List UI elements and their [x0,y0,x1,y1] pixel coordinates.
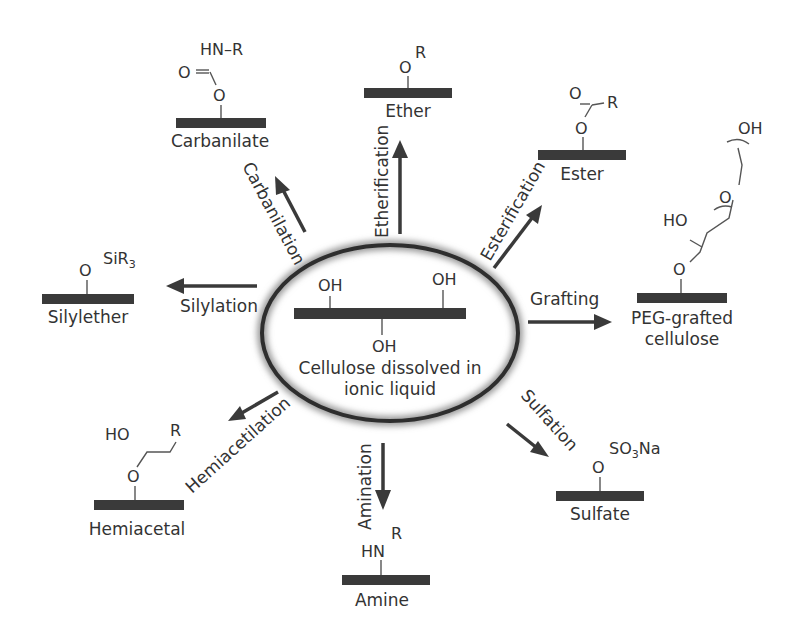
arrow-head-icon [166,278,184,294]
oh-right-label: OH [432,270,457,289]
center-label-line1: Cellulose dissolved in [299,358,482,378]
product-label-line1: PEG-grafted [631,308,733,328]
hn-label: HN [361,542,385,561]
center-cellulose-chain: OH OH OH Cellulose dissolved in ionic li… [294,270,481,399]
reaction-amination: Amination HN R Amine [342,443,430,610]
oh-left-label: OH [318,276,343,295]
reaction-esterification: Esterification O O R Ester [476,84,626,268]
product-label: Ester [560,164,604,184]
product-label-line2: cellulose [645,329,719,349]
ho-label: HO [105,425,130,444]
o-atom-label: O [79,261,92,280]
oh-bottom-label: OH [372,337,397,356]
reaction-label: Amination [355,443,375,530]
product-label: Silylether [48,307,128,327]
r-group-label: R [607,93,618,112]
carbonyl-o-label: O [178,63,191,82]
so3na-label: SO3Na [609,439,661,461]
arrow-head-icon [228,406,246,421]
reaction-sulfation: Sulfation O SO3Na Sulfate [507,385,661,524]
reaction-label: Carbanilation [238,158,309,268]
reaction-hemiacetilation: Hemiacetilation O HO R Hemiacetal [89,392,294,539]
arrow-head-icon [392,140,408,158]
reaction-label: Sulfation [517,385,582,454]
hn-r-label: HN–R [200,40,243,59]
reaction-label: Etherification [372,125,392,238]
product-label: Carbanilate [171,131,269,151]
r-group-label: R [415,43,426,62]
cellulose-derivatization-diagram: OH OH OH Cellulose dissolved in ionic li… [0,0,798,641]
sir3-label: SiR3 [103,249,136,271]
o-atom-label: O [213,86,226,105]
product-label: Sulfate [570,504,630,524]
arrow-head-icon [375,490,391,510]
reaction-etherification: Etherification O R Ether [364,43,452,238]
center-label-line2: ionic liquid [344,379,436,399]
reaction-label: Grafting [530,289,599,309]
arrow-head-icon [275,176,290,195]
o-atom-label: O [575,119,588,138]
o-atom-label: O [127,467,140,486]
arrow-head-icon [594,314,612,330]
ether-o-label: O [719,188,732,207]
reaction-silylation: Silylation O SiR3 Silylether [42,249,258,327]
o-atom-label: O [592,458,605,477]
r-group-label: R [391,524,402,543]
product-label: Hemiacetal [89,519,186,539]
o-atom-label: O [399,58,412,77]
oh-label: OH [738,119,763,138]
reaction-label: Hemiacetilation [181,393,294,497]
product-label: Amine [355,590,409,610]
reaction-label: Silylation [180,296,258,316]
product-label: Ether [385,101,431,121]
ho-label: HO [663,211,688,230]
reaction-carbanilation: Carbanilation O O HN–R Carbanilate [171,40,310,268]
carbonyl-o-label: O [569,84,582,103]
r-group-label: R [170,421,181,440]
o-atom-label: O [673,260,686,279]
